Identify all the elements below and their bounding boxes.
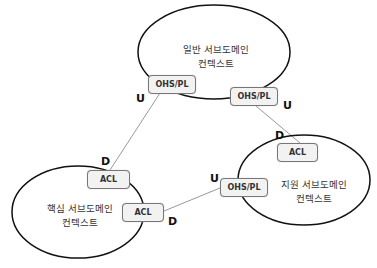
supporting-context-label: 지원 서브도메인 컨텍스트 bbox=[276, 178, 352, 206]
core-context-label: 핵심 서브도메인 컨텍스트 bbox=[42, 202, 118, 230]
supporting-acl-top-box: ACL bbox=[277, 143, 318, 162]
downstream-marker-supporting-top: D bbox=[275, 129, 284, 142]
generic-context-label: 일반 서브도메인 컨텍스트 bbox=[176, 43, 256, 71]
generic-context-line2: 컨텍스트 bbox=[176, 57, 256, 71]
generic-context-line1: 일반 서브도메인 bbox=[176, 43, 256, 57]
downstream-marker-core-right: D bbox=[168, 215, 177, 228]
downstream-marker-core-top: D bbox=[101, 155, 110, 168]
connector-core-supporting bbox=[164, 188, 220, 211]
upstream-marker-generic-left: U bbox=[136, 92, 145, 105]
connector-generic-core bbox=[110, 93, 160, 170]
upstream-marker-supporting-left: U bbox=[210, 172, 219, 185]
supporting-context-line1: 지원 서브도메인 bbox=[276, 178, 352, 192]
supporting-context-line2: 컨텍스트 bbox=[276, 192, 352, 206]
upstream-marker-generic-right: U bbox=[283, 99, 292, 112]
core-acl-right-box: ACL bbox=[122, 203, 164, 222]
generic-ohs-pl-right-box: OHS/PL bbox=[230, 87, 278, 106]
core-context-line2: 컨텍스트 bbox=[42, 216, 118, 230]
generic-ohs-pl-left-box: OHS/PL bbox=[148, 75, 196, 94]
supporting-ohs-pl-left-box: OHS/PL bbox=[220, 178, 268, 197]
core-context-line1: 핵심 서브도메인 bbox=[42, 202, 118, 216]
core-acl-top-box: ACL bbox=[87, 170, 130, 189]
